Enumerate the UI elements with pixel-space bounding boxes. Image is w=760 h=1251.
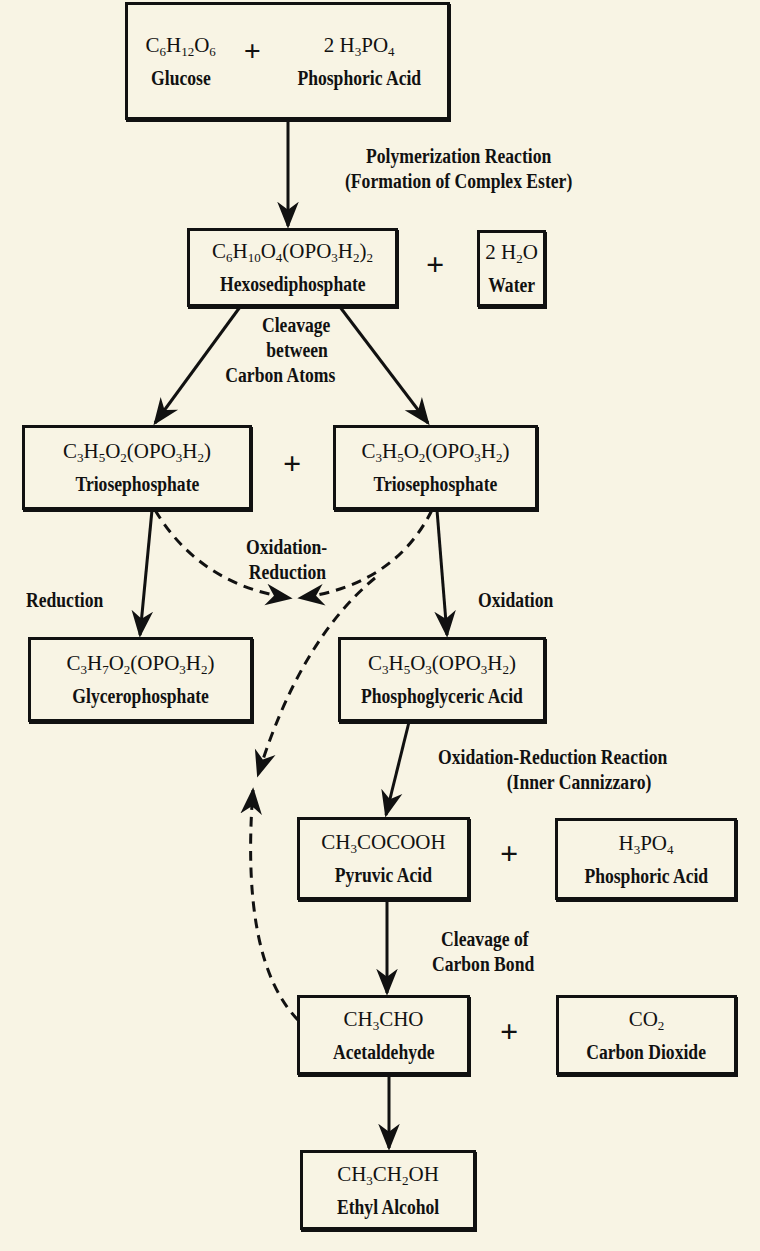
label-cleavage-bond: Cleavage of Carbon Bond bbox=[432, 927, 534, 977]
plus-sign: + bbox=[283, 445, 301, 482]
plus-sign: + bbox=[426, 246, 444, 283]
pyruvic-name: Pyruvic Acid bbox=[335, 862, 432, 888]
glycerophosphate-box: C3H7O2(OPO3H2) Glycerophosphate bbox=[28, 637, 253, 722]
phosphoric-acid-formula: 2 H3PO4 bbox=[324, 32, 395, 65]
label-line: Cleavage bbox=[250, 313, 335, 338]
phosphoric-2-formula: H3PO4 bbox=[618, 830, 673, 863]
glucose-phosphoric-box: C6H12O6 Glucose + 2 H3PO4 Phosphoric Aci… bbox=[125, 2, 450, 120]
triosephosphate-right-box: C3H5O2(OPO3H2) Triosephosphate bbox=[333, 425, 538, 510]
phosphoglyceric-acid-box: C3H5O3(OPO3H2) Phosphoglyceric Acid bbox=[338, 637, 546, 722]
phosphoric-acid-2-box: H3PO4 Phosphoric Acid bbox=[555, 818, 737, 900]
label-line: Reduction bbox=[246, 560, 327, 585]
acetaldehyde-formula: CH3CHO bbox=[343, 1006, 423, 1039]
label-line: Polymerization Reaction bbox=[345, 144, 572, 169]
glycero-formula: C3H7O2(OPO3H2) bbox=[66, 650, 214, 683]
label-line: Carbon Bond bbox=[432, 952, 534, 977]
label-line: Oxidation-Reduction Reaction bbox=[438, 745, 667, 770]
acetaldehyde-name: Acetaldehyde bbox=[333, 1039, 435, 1065]
label-polymerization: Polymerization Reaction (Formation of Co… bbox=[345, 144, 572, 194]
hexose-formula: C6H10O4(OPO3H2)2 bbox=[212, 238, 373, 271]
label-reduction: Reduction bbox=[26, 588, 103, 613]
triosephosphate-left-box: C3H5O2(OPO3H2) Triosephosphate bbox=[22, 425, 252, 510]
acetaldehyde-box: CH3CHO Acetaldehyde bbox=[297, 995, 470, 1075]
water-name: Water bbox=[488, 272, 535, 298]
water-box: 2 H2O Water bbox=[477, 230, 546, 307]
glucose-formula: C6H12O6 bbox=[145, 32, 215, 65]
arrow-triose-to-glycero bbox=[140, 510, 152, 635]
phosphoric-2-name: Phosphoric Acid bbox=[584, 863, 708, 889]
glucose-name: Glucose bbox=[151, 65, 211, 91]
phosphoric-acid-node: 2 H3PO4 Phosphoric Acid bbox=[289, 32, 430, 91]
arrow-phosphoglyceric-to-pyruvic bbox=[386, 722, 409, 815]
co2-formula: CO2 bbox=[629, 1006, 665, 1039]
triose-left-formula: C3H5O2(OPO3H2) bbox=[63, 438, 211, 471]
triose-right-formula: C3H5O2(OPO3H2) bbox=[361, 438, 509, 471]
plus-sign: + bbox=[244, 38, 261, 64]
label-line: Cleavage of bbox=[432, 927, 534, 952]
pyruvic-formula: CH3COCOOH bbox=[321, 829, 445, 862]
label-oxidation: Oxidation bbox=[478, 588, 553, 613]
label-cleavage-atoms: Cleavage between Carbon Atoms bbox=[250, 313, 335, 388]
dashed-acetaldehyde-to-middle bbox=[251, 790, 298, 1020]
label-line: Carbon Atoms bbox=[225, 363, 335, 388]
hexose-name: Hexosediphosphate bbox=[220, 271, 366, 297]
ethyl-alcohol-box: CH3CH2OH Ethyl Alcohol bbox=[300, 1150, 476, 1230]
label-oxidation-reduction: Oxidation- Reduction bbox=[246, 535, 327, 585]
arrow-triose-to-phosphoglyceric bbox=[437, 510, 447, 635]
ethanol-formula: CH3CH2OH bbox=[337, 1161, 439, 1194]
label-line: Oxidation- bbox=[246, 535, 327, 560]
ethanol-name: Ethyl Alcohol bbox=[337, 1194, 439, 1220]
arrow-hexose-to-triose-right bbox=[340, 307, 428, 423]
glycero-name: Glycerophosphate bbox=[72, 683, 209, 709]
label-line: (Formation of Complex Ester) bbox=[345, 169, 572, 194]
triose-right-name: Triosephosphate bbox=[374, 471, 498, 497]
pyruvic-acid-box: CH3COCOOH Pyruvic Acid bbox=[297, 817, 470, 900]
plus-sign: + bbox=[500, 835, 518, 872]
phosphoglyceric-formula: C3H5O3(OPO3H2) bbox=[368, 650, 516, 683]
water-formula: 2 H2O bbox=[485, 239, 538, 272]
hexosediphosphate-box: C6H10O4(OPO3H2)2 Hexosediphosphate bbox=[187, 228, 398, 307]
carbon-dioxide-box: CO2 Carbon Dioxide bbox=[556, 995, 737, 1075]
phosphoglyceric-name: Phosphoglyceric Acid bbox=[361, 683, 523, 709]
triose-left-name: Triosephosphate bbox=[75, 471, 199, 497]
glucose-node: C6H12O6 Glucose bbox=[145, 32, 215, 91]
label-line: (Inner Cannizzaro) bbox=[438, 770, 667, 795]
co2-name: Carbon Dioxide bbox=[587, 1039, 707, 1065]
phosphoric-acid-name: Phosphoric Acid bbox=[297, 65, 421, 91]
label-line: between bbox=[250, 338, 335, 363]
label-cannizzaro: Oxidation-Reduction Reaction (Inner Cann… bbox=[438, 745, 667, 795]
plus-sign: + bbox=[500, 1013, 518, 1050]
